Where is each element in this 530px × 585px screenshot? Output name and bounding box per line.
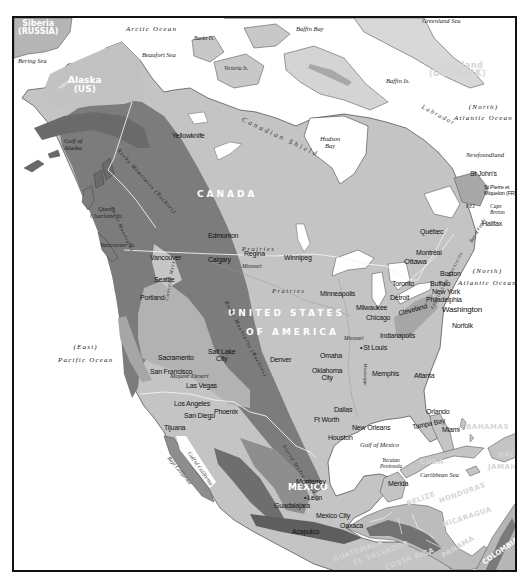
city-phoenix: Phoenix bbox=[214, 408, 238, 415]
label-banks-island: Banks Is. bbox=[194, 36, 214, 42]
label-baffin-bay: Baffin Bay bbox=[296, 26, 324, 33]
city-indianapolis: Indianapolis bbox=[380, 332, 415, 339]
label-greenland: Greenland(DENMARK) bbox=[429, 62, 486, 78]
city-dallas: Dallas bbox=[334, 406, 352, 413]
city-montreal: Montréal bbox=[416, 249, 442, 256]
city-winnipeg: Winnipeg bbox=[284, 254, 312, 261]
city-merida: Mérida bbox=[388, 480, 408, 487]
city-seattle: Seattle bbox=[154, 276, 174, 283]
label-siberia: Siberia(RUSSIA) bbox=[18, 20, 58, 36]
label-alaska: Alaska(US) bbox=[68, 76, 102, 94]
city-los-angeles: Los Angeles bbox=[174, 400, 210, 407]
label-mississippi-river: Mississippi bbox=[363, 363, 368, 386]
arctic-archipelago bbox=[244, 24, 290, 48]
city-oaxaca: Oaxaca bbox=[340, 522, 363, 529]
city-monterrey: Monterrey bbox=[296, 478, 326, 485]
city-philadelphia: Philadelphia bbox=[426, 296, 462, 303]
city-milwaukee: Milwaukee bbox=[356, 304, 387, 311]
city-atlanta: Atlanta bbox=[414, 372, 434, 379]
label-cape-breton: CapeBreton bbox=[490, 204, 505, 215]
label-missouri-river-south: Missouri bbox=[344, 336, 364, 342]
city-sacramento: Sacramento bbox=[158, 354, 194, 361]
city-fort-worth: Ft Worth bbox=[314, 416, 339, 423]
city-tijuana: Tijuana bbox=[164, 424, 185, 431]
label-haiti: HAITI bbox=[498, 452, 517, 459]
label-bering-sea: Bering Sea bbox=[18, 58, 47, 65]
label-greenland-sea: Greenland Sea bbox=[422, 18, 461, 25]
city-omaha: Omaha bbox=[320, 352, 342, 359]
label-beaufort-sea: Beaufort Sea bbox=[142, 52, 176, 59]
city-mexico-city: Mexico City bbox=[316, 512, 350, 519]
city-miami: Miami bbox=[442, 426, 460, 433]
city-san-francisco: San Francisco bbox=[150, 368, 192, 375]
label-newfoundland: Newfoundland bbox=[466, 152, 504, 159]
label-prairies-us: Prairies bbox=[272, 288, 305, 295]
city-leon: León bbox=[304, 494, 322, 501]
city-st-johns: St John's bbox=[470, 170, 497, 177]
city-toronto: Toronto bbox=[392, 280, 414, 287]
city-new-orleans: New Orleans bbox=[352, 424, 390, 431]
label-gulf-of-alaska: Gulf ofAlaska bbox=[64, 138, 82, 151]
label-hudson-bay: HudsonBay bbox=[320, 136, 340, 149]
city-yellowknife: Yellowknife bbox=[172, 132, 205, 139]
label-cuba: CUBA bbox=[420, 459, 444, 466]
city-chicago: Chicago bbox=[366, 314, 390, 321]
city-denver: Denver bbox=[270, 356, 291, 363]
aleutian-islands bbox=[24, 150, 60, 172]
label-missouri-river-north: Missouri bbox=[242, 264, 262, 270]
city-acapulco: Acapulco bbox=[292, 528, 319, 535]
label-usa-line2: OF AMERICA bbox=[246, 328, 339, 337]
city-edmonton: Edmonton bbox=[208, 232, 238, 239]
city-portland: Portland bbox=[140, 294, 164, 301]
jamaica-island bbox=[466, 466, 480, 476]
label-st-pierre-miquelon: St Pierre etMiquelon (FR) bbox=[484, 185, 516, 196]
city-vancouver: Vancouver bbox=[150, 254, 181, 261]
city-oklahoma-city: OklahomaCity bbox=[312, 367, 342, 381]
city-halifax: Halifax bbox=[482, 220, 502, 227]
label-arctic-ocean: Arctic Ocean bbox=[126, 26, 177, 33]
label-canada: CANADA bbox=[197, 190, 258, 199]
label-baffin-island: Baffin Is. bbox=[386, 78, 410, 85]
city-boston: Boston bbox=[440, 270, 461, 277]
city-memphis: Memphis bbox=[372, 370, 399, 377]
city-ottawa: Ottawa bbox=[404, 258, 427, 266]
city-houston: Houston bbox=[328, 434, 353, 441]
city-guadalajara: Guadalajara bbox=[274, 502, 310, 509]
label-east-pacific: (East)Pacific Ocean bbox=[58, 344, 113, 364]
city-salt-lake-city: Salt LakeCity bbox=[208, 348, 235, 362]
label-gulf-of-mexico: Gulf of Mexico bbox=[360, 442, 399, 449]
label-victoria-island: Victoria Is. bbox=[224, 66, 248, 72]
label-jamaica: JAMAICA bbox=[488, 464, 517, 471]
label-north-atlantic-lower: (North)Atlantic Ocean bbox=[458, 268, 517, 287]
city-buffalo: Buffalo bbox=[430, 280, 450, 287]
city-san-diego: San Diego bbox=[184, 412, 215, 419]
city-norfolk: Norfolk bbox=[452, 322, 473, 329]
city-regina: Regina bbox=[244, 250, 265, 257]
city-calgary: Calgary bbox=[208, 256, 231, 263]
city-quebec: Québec bbox=[420, 228, 443, 235]
label-yucatan-peninsula: YucatanPeninsula bbox=[380, 458, 402, 469]
city-las-vegas: Las Vegas bbox=[186, 382, 217, 389]
label-pei: PEI bbox=[466, 204, 475, 210]
city-new-york: New York bbox=[432, 288, 460, 295]
city-detroit: Detroit bbox=[390, 294, 409, 301]
city-orlando: Orlando bbox=[426, 408, 450, 415]
label-caribbean-sea: Caribbean Sea bbox=[420, 472, 459, 479]
label-usa-line1: UNITED STATES bbox=[228, 309, 345, 318]
city-minneapolis: Minneapolis bbox=[320, 290, 355, 297]
city-washington: Washington bbox=[442, 306, 482, 314]
label-north-atlantic-upper: (North)Atlantic Ocean bbox=[454, 104, 513, 122]
map-frame: Siberia(RUSSIA) Alaska(US) Greenland(DEN… bbox=[12, 16, 517, 572]
label-bahamas: BAHAMAS bbox=[466, 424, 509, 431]
city-st-louis: St Louis bbox=[360, 344, 387, 351]
